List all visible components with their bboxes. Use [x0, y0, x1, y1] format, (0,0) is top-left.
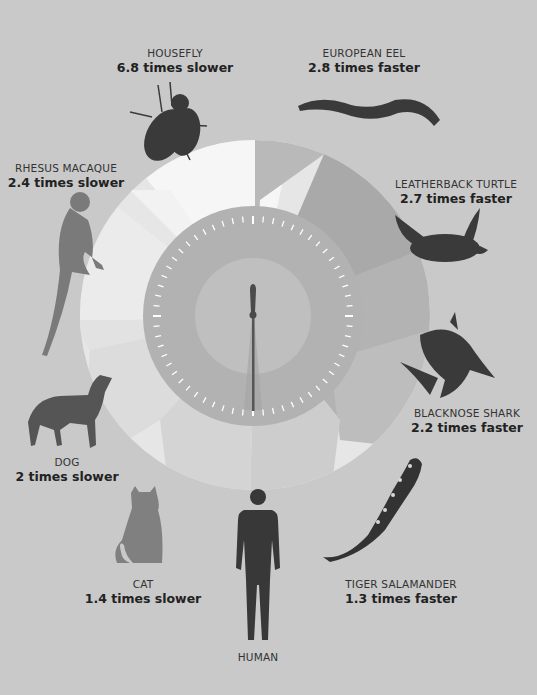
human-icon — [236, 489, 280, 640]
animal-name: HUMAN — [238, 650, 279, 664]
european-eel-icon — [298, 99, 440, 126]
label-european-eel: EUROPEAN EEL 2.8 times faster — [308, 46, 420, 75]
tick-mark — [346, 306, 352, 307]
animal-rate: 1.3 times faster — [345, 591, 457, 606]
tick-mark — [154, 306, 160, 307]
animal-rate: 2.7 times faster — [395, 191, 517, 206]
tick-mark — [263, 409, 264, 415]
label-rhesus-macaque: RHESUS MACAQUE 2.4 times slower — [8, 161, 125, 190]
animal-rate: 1.4 times slower — [85, 591, 202, 606]
animal-name: DOG — [15, 455, 118, 469]
infographic: HOUSEFLY 6.8 times slower EUROPEAN EEL 2… — [0, 0, 537, 695]
animal-name: RHESUS MACAQUE — [8, 161, 125, 175]
label-human: HUMAN — [238, 650, 279, 664]
animal-name: BLACKNOSE SHARK — [411, 406, 523, 420]
animal-rate: 6.8 times slower — [117, 60, 234, 75]
animal-rate: 2 times slower — [15, 469, 118, 484]
label-tiger-salamander: TIGER SALAMANDER 1.3 times faster — [345, 577, 457, 606]
dog-icon — [28, 375, 112, 448]
label-cat: CAT 1.4 times slower — [85, 577, 202, 606]
animal-name: CAT — [85, 577, 202, 591]
animal-rate: 2.8 times faster — [308, 60, 420, 75]
animal-name: HOUSEFLY — [117, 46, 234, 60]
tick-mark — [346, 326, 352, 327]
label-housefly: HOUSEFLY 6.8 times slower — [117, 46, 234, 75]
label-blacknose-shark: BLACKNOSE SHARK 2.2 times faster — [411, 406, 523, 435]
tick-mark — [243, 409, 244, 415]
tick-mark — [243, 217, 244, 223]
label-dog: DOG 2 times slower — [15, 455, 118, 484]
animal-name: LEATHERBACK TURTLE — [395, 177, 517, 191]
animal-rate: 2.4 times slower — [8, 175, 125, 190]
animal-name: TIGER SALAMANDER — [345, 577, 457, 591]
animal-name: EUROPEAN EEL — [308, 46, 420, 60]
tick-mark — [154, 326, 160, 327]
tiger-salamander-icon — [323, 458, 422, 562]
label-leatherback-turtle: LEATHERBACK TURTLE 2.7 times faster — [395, 177, 517, 206]
tick-mark — [263, 217, 264, 223]
cat-icon — [115, 486, 162, 563]
animal-rate: 2.2 times faster — [411, 420, 523, 435]
